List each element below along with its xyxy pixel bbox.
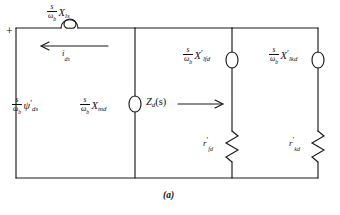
label-field-leakage-reactance: s ωb X′lfd bbox=[183, 46, 210, 66]
resistor-rkd-zigzag bbox=[312, 131, 324, 162]
fraction-s-over-omega-b: s ωb bbox=[269, 46, 279, 66]
symbol-psi-ds: ψ′ds bbox=[24, 101, 39, 112]
positive-terminal-label: + bbox=[6, 24, 13, 39]
fraction-s-over-omega-b: s ωb bbox=[183, 46, 193, 66]
label-series-leakage-reactance: s ωb Xls bbox=[47, 3, 70, 23]
fraction-s-over-omega-b: s ωb bbox=[80, 96, 90, 116]
symbol-X-lkd: X′lkd bbox=[281, 51, 298, 62]
fraction-s-over-omega-b: s ωb bbox=[12, 96, 22, 116]
symbol-X-lfd: X′lfd bbox=[195, 51, 211, 62]
inductor-lkd-coil bbox=[312, 52, 324, 68]
resistor-rfd-zigzag bbox=[226, 131, 238, 162]
label-damper-leakage-reactance: s ωb X′lkd bbox=[269, 46, 297, 66]
inductor-lfd-coil bbox=[226, 52, 238, 68]
label-operational-impedance: Zd(s) bbox=[146, 97, 166, 108]
circuit-diagram: + s ωb Xls ids s ωb ψ′ds s ωb Xmd Zd(s) bbox=[0, 0, 340, 215]
label-magnetizing-reactance: s ωb Xmd bbox=[80, 96, 106, 116]
symbol-Z-d: Zd(s) bbox=[146, 97, 166, 108]
symbol-X-md: Xmd bbox=[92, 101, 107, 112]
label-damper-resistance: r′kd bbox=[289, 138, 300, 150]
label-flux-linkage-source: s ωb ψ′ds bbox=[12, 96, 38, 116]
circuit-schematic-svg bbox=[0, 0, 340, 215]
label-field-resistance: r′fd bbox=[203, 138, 213, 150]
symbol-X-ls: Xls bbox=[59, 8, 70, 19]
fraction-s-over-omega-b: s ωb bbox=[47, 3, 57, 23]
figure-caption: (a) bbox=[163, 190, 174, 200]
inductor-xmd-coil bbox=[129, 96, 141, 112]
label-stator-current: ids bbox=[62, 48, 70, 60]
